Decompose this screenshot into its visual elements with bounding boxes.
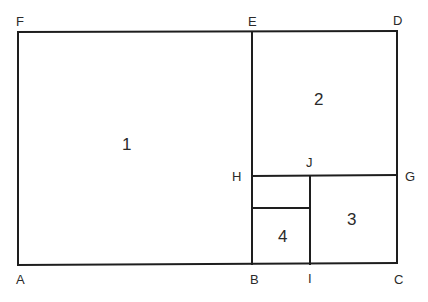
point-label-J: J [306,155,313,170]
point-label-C: C [394,272,403,287]
edge-HG [252,175,397,176]
point-label-D: D [393,13,402,28]
region-label-3: 3 [347,210,356,229]
point-label-E: E [248,14,257,29]
point-label-A: A [16,272,25,287]
point-label-H: H [232,169,241,184]
point-label-I: I [308,271,312,286]
point-label-G: G [405,169,415,184]
diagram-canvas: F E D H J G A B I C 1 2 3 4 [0,0,428,302]
region-label-4: 4 [278,227,287,246]
region-label-2: 2 [314,90,323,109]
point-label-B: B [250,272,259,287]
edge-FD [18,31,397,32]
edge-AC [18,263,397,265]
region-label-1: 1 [122,135,131,154]
point-label-F: F [16,14,24,29]
